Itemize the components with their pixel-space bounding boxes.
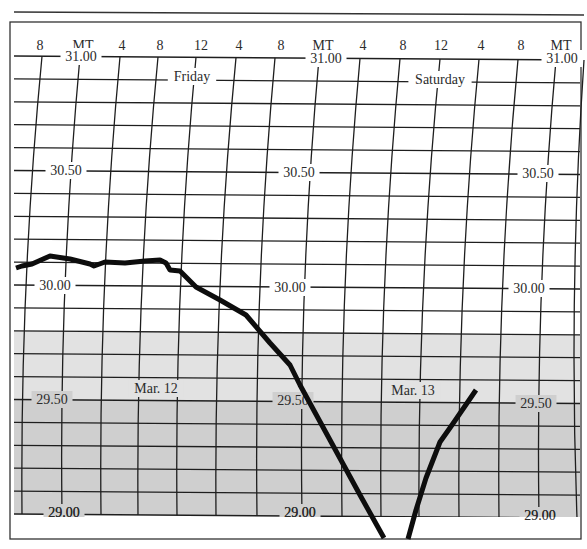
pressure-tick-label: 29.00 bbox=[524, 508, 556, 523]
time-tick-label: 8 bbox=[37, 38, 44, 53]
pressure-tick-label: 31.00 bbox=[310, 51, 342, 66]
pressure-tick-label: 30.00 bbox=[513, 281, 545, 296]
pressure-gridline bbox=[14, 79, 580, 83]
barograph-chart: 8MT481248MT481248MT31.0030.5030.0029.502… bbox=[0, 0, 587, 549]
pressure-gridline bbox=[14, 193, 580, 197]
time-tick-label: 4 bbox=[360, 38, 367, 53]
pressure-gridline bbox=[14, 308, 580, 312]
pressure-tick-label: 30.50 bbox=[283, 165, 315, 180]
pressure-tick-label: 30.50 bbox=[522, 166, 554, 181]
time-tick-label: 8 bbox=[400, 38, 407, 53]
pressure-tick-label: 29.50 bbox=[520, 396, 552, 411]
pressure-tick-label: 30.00 bbox=[274, 280, 306, 295]
pressure-gridline bbox=[14, 239, 580, 243]
time-tick-label: 12 bbox=[434, 38, 448, 53]
pressure-gridline bbox=[14, 216, 580, 220]
pressure-tick-label: 29.00 bbox=[284, 505, 316, 520]
barograph-svg: 8MT481248MT481248MT31.0030.5030.0029.502… bbox=[0, 0, 587, 549]
time-tick-label: 4 bbox=[236, 38, 243, 53]
time-tick-label: 4 bbox=[478, 38, 485, 53]
date-label-mar12: Mar. 12 bbox=[134, 381, 178, 396]
bottom-margin bbox=[11, 517, 580, 538]
day-label-friday: Friday bbox=[174, 69, 211, 84]
pressure-tick-label: 31.00 bbox=[546, 51, 578, 66]
pressure-gridline bbox=[14, 125, 580, 129]
time-tick-label: 8 bbox=[518, 38, 525, 53]
day-label-saturday: Saturday bbox=[415, 72, 465, 87]
time-tick-label: 12 bbox=[194, 38, 208, 53]
time-tick-label: 8 bbox=[157, 38, 164, 53]
pressure-tick-label: 29.00 bbox=[48, 505, 80, 520]
time-tick-label: 4 bbox=[119, 38, 126, 53]
top-rule bbox=[14, 12, 584, 15]
pressure-tick-label: 29.50 bbox=[36, 392, 68, 407]
date-label-mar13: Mar. 13 bbox=[391, 383, 435, 398]
pressure-tick-label: 31.00 bbox=[65, 49, 97, 64]
pressure-tick-label: 30.00 bbox=[39, 278, 71, 293]
pressure-gridline bbox=[14, 148, 580, 152]
pressure-gridline bbox=[14, 102, 580, 106]
shaded-band bbox=[14, 400, 580, 519]
time-tick-label: 8 bbox=[278, 38, 285, 53]
pressure-tick-label: 30.50 bbox=[50, 163, 82, 178]
